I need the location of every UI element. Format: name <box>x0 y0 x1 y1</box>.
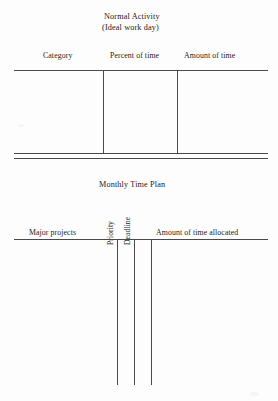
table-normal-activity-bottom-rule-upper <box>14 153 268 154</box>
table-normal-activity-title-line2: (Ideal work day) <box>102 24 159 33</box>
document-page: Normal Activity (Ideal work day) Categor… <box>0 0 278 401</box>
table-normal-activity-body <box>14 71 268 152</box>
table-normal-activity-title-line1: Normal Activity <box>104 13 160 22</box>
column-header-amount-of-time: Amount of time <box>184 52 235 60</box>
column-header-percent-of-time: Percent of time <box>110 52 159 60</box>
column-header-category: Category <box>43 52 72 60</box>
scan-artifact <box>18 124 24 127</box>
table-monthly-time-plan-title: Monthly Time Plan <box>99 181 165 190</box>
table-monthly-time-plan-body <box>14 240 268 385</box>
column-header-amount-of-time-allocated: Amount of time allocated <box>156 229 238 237</box>
scan-artifact <box>250 392 259 396</box>
column-header-major-projects: Major projects <box>29 229 76 237</box>
table-normal-activity-bottom-rule-lower <box>14 158 268 159</box>
